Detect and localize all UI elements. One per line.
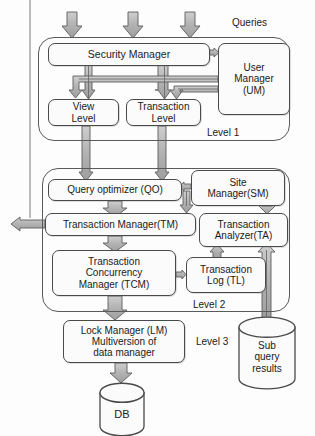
site-manager-label-line2: Manager(SM)	[207, 188, 268, 199]
lock-manager-label-line2: Multiversion of	[92, 336, 156, 347]
view-level-label-line1: View	[73, 101, 95, 112]
sub-query-label-line2: query	[254, 351, 279, 362]
node-transaction-analyzer[interactable]: Transaction Analyzer(TA)	[199, 213, 288, 247]
node-transaction-concurrency-manager[interactable]: Transaction Concurrency Manager (TCM)	[52, 250, 176, 296]
security-manager-label: Security Manager	[88, 49, 170, 61]
node-transaction-manager[interactable]: Transaction Manager(TM)	[45, 213, 196, 236]
node-query-optimizer[interactable]: Query optimizer (QO)	[48, 179, 182, 201]
sub-query-label-line1: Sub	[258, 340, 276, 351]
arrow-query-input-1	[62, 12, 82, 38]
transaction-manager-label: Transaction Manager(TM)	[63, 219, 178, 230]
site-manager-label-line1: Site	[229, 177, 246, 188]
node-transaction-level[interactable]: Transaction Level	[126, 99, 201, 126]
tcm-label-line1: Transaction	[88, 256, 140, 267]
node-security-manager[interactable]: Security Manager	[48, 43, 210, 66]
user-manager-label-line1: User	[243, 62, 264, 73]
datastore-sub-query-results[interactable]: Sub query results	[237, 316, 297, 390]
view-level-label-line2: Level	[72, 113, 96, 124]
user-manager-label-line2: Manager	[234, 73, 273, 84]
query-optimizer-label: Query optimizer (QO)	[67, 184, 163, 195]
lock-manager-label-line3: data manager	[93, 347, 155, 358]
transaction-log-label-line1: Transaction	[200, 264, 252, 275]
transaction-level-label-line1: Transaction	[138, 101, 190, 112]
node-lock-manager[interactable]: Lock Manager (LM) Multiversion of data m…	[63, 320, 185, 363]
transaction-log-label-line2: Log (TL)	[207, 275, 245, 286]
label-level-2: Level 2	[193, 299, 225, 310]
arrow-tm-output-left	[11, 217, 45, 231]
sub-query-label-line3: results	[252, 363, 281, 374]
arrow-lm-to-db	[110, 363, 132, 383]
db-label: DB	[114, 408, 129, 421]
label-level-1: Level 1	[207, 127, 239, 138]
transaction-level-label-line2: Level	[152, 113, 176, 124]
lock-manager-label-line1: Lock Manager (LM)	[81, 325, 168, 336]
node-user-manager[interactable]: User Manager (UM)	[218, 43, 290, 115]
arrow-query-input-3	[180, 12, 200, 38]
tcm-label-line3: Manager (TCM)	[79, 279, 150, 290]
datastore-db[interactable]: DB	[98, 382, 146, 436]
node-site-manager[interactable]: Site Manager(SM)	[191, 170, 285, 206]
node-transaction-log[interactable]: Transaction Log (TL)	[186, 257, 266, 293]
label-queries: Queries	[232, 17, 267, 28]
label-level-3: Level 3	[196, 336, 228, 347]
user-manager-label-line3: (UM)	[243, 85, 265, 96]
transaction-analyzer-label-line1: Transaction	[218, 219, 270, 230]
diagram-canvas: Security Manager User Manager (UM) View …	[0, 0, 315, 436]
transaction-analyzer-label-line2: Analyzer(TA)	[215, 230, 273, 241]
node-view-level[interactable]: View Level	[48, 99, 119, 126]
tcm-label-line2: Concurrency	[86, 267, 143, 278]
arrow-query-input-2	[123, 12, 143, 38]
